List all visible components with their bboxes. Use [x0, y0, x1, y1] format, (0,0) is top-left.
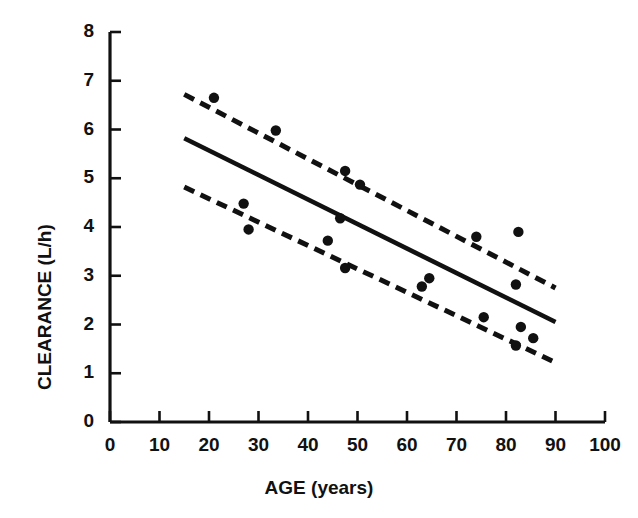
regression-line	[184, 138, 555, 322]
data-point	[479, 312, 489, 322]
data-point	[323, 235, 333, 245]
data-point	[243, 224, 253, 234]
data-point	[513, 227, 523, 237]
y-axis-title: CLEARANCE (L/h)	[34, 224, 56, 390]
axis-group	[110, 32, 605, 422]
y-tick-label: 7	[64, 69, 94, 91]
data-point	[271, 125, 281, 135]
scatter-plot-figure: 0102030405060708090100 012345678 AGE (ye…	[0, 0, 638, 518]
data-point	[424, 273, 434, 283]
lower-confidence-limit	[184, 187, 555, 363]
y-tick-label: 6	[64, 118, 94, 140]
data-point	[238, 198, 248, 208]
data-point	[511, 279, 521, 289]
data-point	[471, 232, 481, 242]
data-point	[335, 213, 345, 223]
regression-series-group	[184, 94, 555, 362]
y-tick-label: 5	[64, 166, 94, 188]
upper-confidence-limit	[184, 94, 555, 288]
data-point	[340, 166, 350, 176]
y-tick-label: 1	[64, 361, 94, 383]
data-point	[511, 340, 521, 350]
data-point	[516, 322, 526, 332]
x-axis-title: AGE (years)	[0, 477, 638, 499]
y-tick-label: 0	[64, 410, 94, 432]
data-point	[417, 281, 427, 291]
x-tick-label: 100	[575, 434, 635, 456]
y-tick-label: 2	[64, 313, 94, 335]
y-tick-label: 4	[64, 215, 94, 237]
data-point	[528, 333, 538, 343]
data-point	[209, 93, 219, 103]
data-point	[355, 179, 365, 189]
y-tick-label: 8	[64, 20, 94, 42]
data-point	[340, 263, 350, 273]
y-tick-label: 3	[64, 264, 94, 286]
